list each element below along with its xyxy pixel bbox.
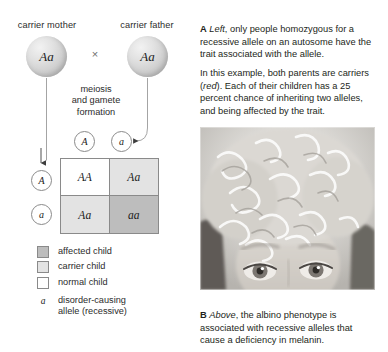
legend-label-allele: disorder-causing allele (recessive) (58, 295, 127, 318)
paragraph-a-italic: Left (209, 24, 225, 34)
punnett-square: AA Aa Aa aa (60, 158, 159, 234)
punnett-cell-Aa-bottom-left-text: Aa (78, 209, 91, 221)
punnett-cell-aa-text: aa (128, 209, 140, 221)
legend-allele-line-1: disorder-causing (58, 295, 127, 306)
gamete-mother-a: a (31, 204, 52, 225)
caption-b: B Above, the albino phenotype is associa… (200, 309, 378, 346)
caption-b-italic: Above (209, 310, 235, 320)
legend-item-normal: normal child (37, 277, 187, 289)
paragraph-b-italic: red (203, 81, 216, 91)
paragraph-b: In this example, both parents are carrie… (200, 67, 378, 117)
legend-label-carrier: carrier child (58, 261, 105, 272)
punnett-cell-AA: AA (61, 159, 110, 196)
meiosis-line-3: formation (68, 107, 124, 118)
legend-swatch-normal (37, 277, 49, 289)
paragraph-a-body: , only people homozygous for a recessive… (200, 24, 371, 59)
carrier-father-label: carrier father (104, 20, 190, 30)
punnett-cell-AA-text: AA (78, 171, 92, 183)
legend: affected child carrier child normal chil… (37, 246, 187, 321)
meiosis-line-2: and gamete (68, 95, 124, 106)
photo-content (200, 127, 375, 290)
figure-root: carrier mother carrier father Aa Aa × me… (0, 0, 388, 352)
mother-genotype-text: Aa (39, 49, 53, 65)
meiosis-process-label: meiosis and gamete formation (68, 84, 124, 118)
legend-item-affected: affected child (37, 246, 187, 258)
punnett-cell-Aa-bottom-left: Aa (61, 196, 110, 233)
albino-child-photo (200, 127, 375, 290)
gamete-father-A: A (74, 131, 95, 152)
mother-genotype-circle: Aa (26, 36, 67, 77)
caption-b-lead: B (200, 310, 207, 320)
meiosis-line-1: meiosis (68, 84, 124, 95)
paragraph-b-part2: ). Each of their children has a 25 perce… (200, 81, 363, 116)
legend-label-affected: affected child (58, 246, 112, 257)
legend-swatch-carrier (37, 261, 49, 273)
punnett-cell-aa: aa (110, 196, 159, 233)
gamete-father-a: a (111, 131, 132, 152)
punnett-diagram-panel: carrier mother carrier father Aa Aa × me… (0, 0, 195, 352)
legend-allele-glyph: a (37, 295, 49, 307)
legend-label-normal: normal child (58, 277, 108, 288)
father-genotype-circle: Aa (127, 36, 168, 77)
paragraph-a: A Left, only people homozygous for a rec… (200, 23, 378, 60)
legend-item-carrier: carrier child (37, 261, 187, 273)
father-genotype-text: Aa (140, 49, 154, 65)
punnett-cell-Aa-top-right: Aa (110, 159, 159, 196)
gamete-mother-a-text: a (39, 209, 44, 220)
legend-swatch-affected (37, 246, 49, 258)
paragraph-a-lead: A (200, 24, 207, 34)
legend-allele-line-2: allele (recessive) (58, 306, 127, 317)
legend-item-allele: a disorder-causing allele (recessive) (37, 295, 187, 318)
gamete-mother-A-text: A (38, 175, 44, 186)
gamete-father-A-text: A (81, 136, 87, 147)
cross-symbol: × (88, 48, 102, 60)
gamete-mother-A: A (31, 170, 52, 191)
carrier-mother-label: carrier mother (4, 20, 90, 30)
punnett-cell-Aa-top-right-text: Aa (127, 171, 140, 183)
gamete-father-a-text: a (119, 136, 124, 147)
